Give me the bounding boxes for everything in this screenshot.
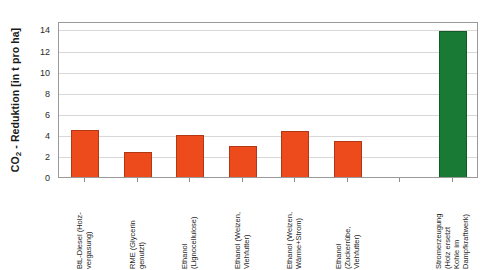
y-axis-title-post: - Reduktion [in t pro ha] (9, 28, 21, 152)
x-axis-tick (84, 178, 85, 182)
plot-area (58, 22, 478, 178)
x-axis-tick (347, 178, 348, 182)
bar (176, 135, 204, 177)
y-axis-tick-labels: 02468101214 (24, 22, 54, 178)
x-axis-category-label-line: Dampfkraftwerk) (461, 214, 470, 269)
x-axis-category-label-text: Ethanol (Weizen,Viehfutter) (233, 212, 251, 269)
y-axis-title: CO2 - Reduktion [in t pro ha] (6, 22, 24, 178)
x-axis-category-label-line: BtL-Diesel (Holz- (75, 212, 84, 269)
x-axis-category-label: Ethanol(Zuckerrübe,Viehfutter) (304, 183, 390, 269)
y-axis-tick-label: 4 (45, 131, 50, 141)
y-axis-tick-label: 0 (45, 173, 50, 183)
x-axis-category-labels: BtL-Diesel (Holz-vergasung)RME (Glycerin… (58, 183, 478, 269)
y-axis-title-subscript: 2 (14, 152, 23, 157)
x-axis-category-label-line: Ethanol (333, 226, 342, 269)
x-axis-category-label-text: RME (Glyceringenutzt) (128, 220, 146, 269)
x-axis-category-label-line: Kohle im (452, 214, 461, 269)
bar (229, 146, 257, 177)
y-axis-tick-label: 12 (40, 47, 50, 57)
x-axis-category-label-line: (Lignocellulose) (189, 216, 198, 269)
x-axis-tick (189, 178, 190, 182)
x-axis-category-label-text: Ethanol(Lignocellulose) (180, 216, 198, 269)
x-axis-category-label-line: Wärme+Strom) (294, 212, 303, 269)
bar-series (59, 23, 477, 177)
x-axis-tick (242, 178, 243, 182)
bar (71, 130, 99, 177)
x-axis-category-label: Stromerzeugung(Holz ersetztKohle imDampf… (409, 183, 495, 269)
x-axis-category-label-line: Stromerzeugung (434, 214, 443, 269)
x-axis-category-label-text: Ethanol (Weizen,Wärme+Strom) (285, 212, 303, 269)
x-axis-category-label-text: Stromerzeugung(Holz ersetztKohle imDampf… (434, 214, 470, 269)
bar (124, 152, 152, 177)
x-axis-category-label-line: RME (Glycerin (128, 220, 137, 269)
x-axis-category-label-line: Ethanol (180, 216, 189, 269)
x-axis-category-label-line: (Zuckerrübe, (342, 226, 351, 269)
x-axis-category-label-line: Viehfutter) (351, 226, 360, 269)
y-axis-tick-label: 14 (40, 25, 50, 35)
y-axis-tick-label: 2 (45, 152, 50, 162)
x-axis-category-label-line: (Holz ersetzt (443, 214, 452, 269)
x-axis-category-label-line: Viehfutter) (242, 212, 251, 269)
x-axis-category-label-line: genutzt) (137, 220, 146, 269)
x-axis-tick (399, 178, 400, 182)
x-axis-category-label-text: Ethanol(Zuckerrübe,Viehfutter) (333, 226, 360, 269)
y-axis-tick-label: 6 (45, 110, 50, 120)
bar (281, 131, 309, 177)
y-axis-title-text: CO2 - Reduktion [in t pro ha] (9, 28, 21, 172)
y-axis-tick-label: 8 (45, 89, 50, 99)
x-axis-category-label-line: Ethanol (Weizen, (233, 212, 242, 269)
y-axis-tick-label: 10 (40, 68, 50, 78)
x-axis-category-label-line: Ethanol (Weizen, (285, 212, 294, 269)
x-axis-category-label-text: BtL-Diesel (Holz-vergasung) (75, 212, 93, 269)
x-axis-tick (294, 178, 295, 182)
bar (439, 31, 467, 178)
x-axis-tick (452, 178, 453, 182)
bar-chart: CO2 - Reduktion [in t pro ha] 0246810121… (0, 0, 495, 270)
bar (334, 141, 362, 177)
y-axis-title-pre: CO (9, 156, 21, 172)
x-axis-category-label-line: vergasung) (84, 212, 93, 269)
x-axis-tick (137, 178, 138, 182)
